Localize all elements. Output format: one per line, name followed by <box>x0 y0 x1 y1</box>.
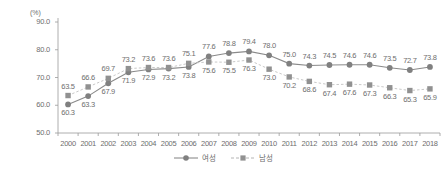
y-axis-tick-label: 60.0 <box>24 100 50 109</box>
legend-marker-circle-icon <box>173 153 199 163</box>
data-point-label: 63.3 <box>75 100 101 109</box>
data-point-label: 75.1 <box>176 49 202 58</box>
y-axis-tick-label: 70.0 <box>24 73 50 82</box>
legend-label-male: 남성 <box>259 152 273 163</box>
legend-item-female[interactable]: 여성 <box>173 152 216 163</box>
data-point-label: 69.7 <box>95 64 121 73</box>
legend-item-male[interactable]: 남성 <box>230 152 273 163</box>
legend-marker-square-icon <box>230 153 256 163</box>
y-axis-tick-label: 90.0 <box>24 17 50 26</box>
data-point-label: 76.3 <box>236 64 262 73</box>
data-point-label: 65.9 <box>417 93 443 102</box>
data-point-label: 73.8 <box>417 53 443 62</box>
y-axis-tick-label: 80.0 <box>24 45 50 54</box>
data-point-label: 66.6 <box>75 73 101 82</box>
data-point-label: 67.9 <box>95 87 121 96</box>
data-point-label: 60.3 <box>55 108 81 117</box>
chart-legend: 여성 남성 <box>0 152 445 163</box>
x-axis-tick-label: 2018 <box>418 139 442 148</box>
legend-label-female: 여성 <box>202 152 216 163</box>
y-axis-tick-label: 50.0 <box>24 128 50 137</box>
data-point-label: 63.5 <box>55 82 81 91</box>
